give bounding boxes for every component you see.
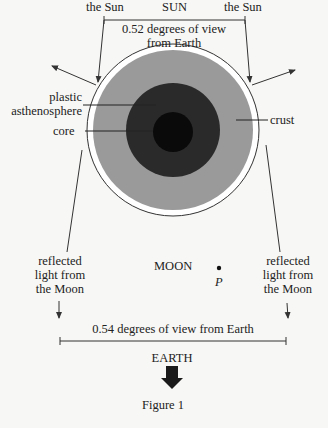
earth-down-arrow-icon [161, 366, 183, 389]
reflected-left-line1: reflected [28, 254, 92, 268]
reflected-light-right-label: reflected light from the Moon [256, 254, 320, 296]
point-p-label: P [215, 275, 223, 289]
moon-title: MOON [154, 259, 192, 273]
sun-angle-label: 0.52 degrees of view from Earth [100, 22, 248, 50]
reflected-light-left-label: reflected light from the Moon [28, 254, 92, 296]
figure-caption: Figure 1 [130, 398, 196, 412]
moon-angle-bracket [60, 337, 286, 345]
reflected-right-line1: reflected [256, 254, 320, 268]
reflected-left-line3: the Moon [28, 282, 92, 296]
sun-right-edge-label: the Sun [224, 0, 262, 14]
core-label: core [53, 124, 75, 138]
reflected-left-line2: light from [28, 268, 92, 282]
sun-title: SUN [162, 0, 187, 14]
point-p-dot [217, 266, 221, 270]
sun-disk [87, 44, 259, 216]
asthenosphere-label-line2: asthenosphere [0, 104, 82, 118]
asthenosphere-label: plastic asthenosphere [0, 90, 82, 118]
reflected-right-line3: the Moon [256, 282, 320, 296]
reflected-right-line2: light from [256, 268, 320, 282]
crust-label: crust [270, 113, 294, 127]
sun-angle-line1: 0.52 degrees of view [100, 22, 248, 36]
asthenosphere-label-line1: plastic [0, 90, 82, 104]
sun-left-edge-label: the Sun [86, 0, 124, 14]
earth-title: EARTH [140, 351, 204, 365]
sun-angle-line2: from Earth [100, 36, 248, 50]
moon-angle-label: 0.54 degrees of view from Earth [60, 322, 286, 336]
sun-core-layer [153, 112, 193, 152]
